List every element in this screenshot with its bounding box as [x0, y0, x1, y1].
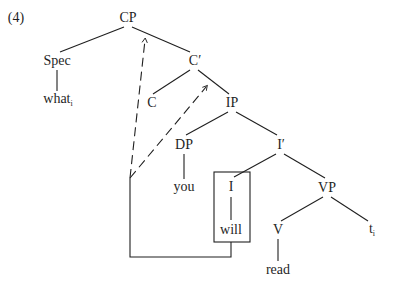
node-dp: DP	[175, 137, 193, 153]
tree-lines	[0, 0, 400, 287]
movement-arrow-to-c	[130, 87, 206, 178]
branch-cp-cbar	[132, 27, 190, 52]
node-what: whati	[43, 91, 72, 112]
node-ip: IP	[226, 95, 238, 111]
branch-cp-spec	[60, 27, 124, 52]
word-read: read	[266, 262, 290, 278]
branch-ibar-vp	[284, 154, 325, 178]
branch-cbar-c	[153, 70, 190, 94]
node-i: I	[229, 179, 234, 195]
node-v: V	[273, 222, 283, 238]
branch-vp-v	[281, 197, 323, 221]
node-i-bar: I′	[277, 137, 285, 153]
branch-ip-ibar	[236, 112, 277, 135]
example-number: (4)	[8, 10, 24, 26]
branch-ibar-i	[234, 154, 276, 177]
word-what: what	[43, 91, 70, 106]
trace-index: i	[373, 229, 375, 238]
branch-ip-dp	[186, 112, 228, 135]
word-will: will	[220, 222, 242, 238]
node-cp: CP	[119, 10, 136, 26]
node-vp: VP	[318, 180, 336, 196]
index-i: i	[70, 99, 72, 108]
node-c-bar: C′	[189, 53, 201, 69]
movement-arrow-to-cp	[130, 40, 145, 178]
branch-vp-trace	[331, 197, 368, 221]
node-spec: Spec	[43, 53, 70, 69]
trace: ti	[369, 221, 375, 242]
word-you: you	[174, 179, 195, 195]
node-c: C	[147, 95, 156, 111]
